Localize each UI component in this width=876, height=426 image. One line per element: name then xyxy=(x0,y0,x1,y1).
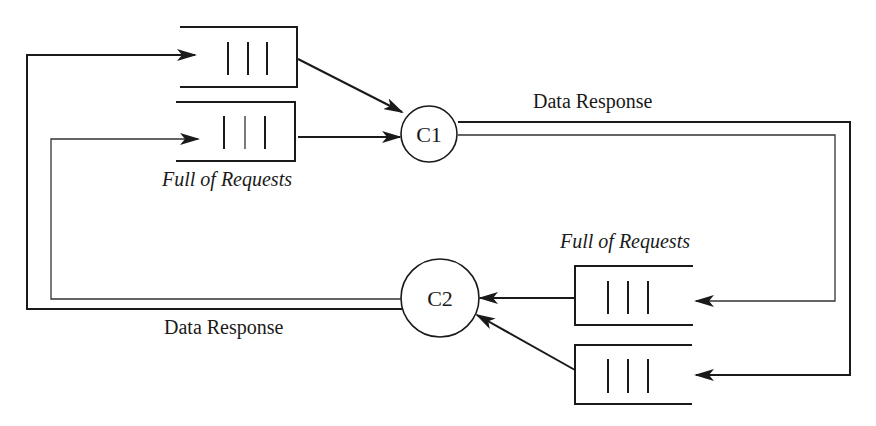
arrow-q4-to-c2 xyxy=(477,315,575,370)
queue-1-outline xyxy=(180,27,297,87)
queue-3-outline xyxy=(575,266,693,325)
queue-4 xyxy=(575,345,692,404)
node-c1: C1 xyxy=(401,106,457,162)
queue-3 xyxy=(575,266,693,325)
edge-c2-to-q2 xyxy=(51,139,402,299)
queue-4-outline xyxy=(575,345,692,404)
queue-2-outline xyxy=(176,102,295,161)
queue-caption-top: Full of Requests xyxy=(161,168,292,191)
data-response-label-top: Data Response xyxy=(533,90,653,113)
request-flow-diagram: Full of Requests C1 Data Response Full o… xyxy=(0,0,876,426)
data-response-label-bottom: Data Response xyxy=(164,316,284,339)
queue-caption-bottom: Full of Requests xyxy=(559,230,690,253)
arrow-q1-to-c1 xyxy=(298,59,402,112)
node-c2: C2 xyxy=(401,259,479,337)
edge-c1-to-q3 xyxy=(458,135,835,301)
node-c1-label: C1 xyxy=(416,122,442,147)
queue-1 xyxy=(180,27,297,87)
node-c2-label: C2 xyxy=(427,286,453,311)
queue-2 xyxy=(176,102,295,161)
